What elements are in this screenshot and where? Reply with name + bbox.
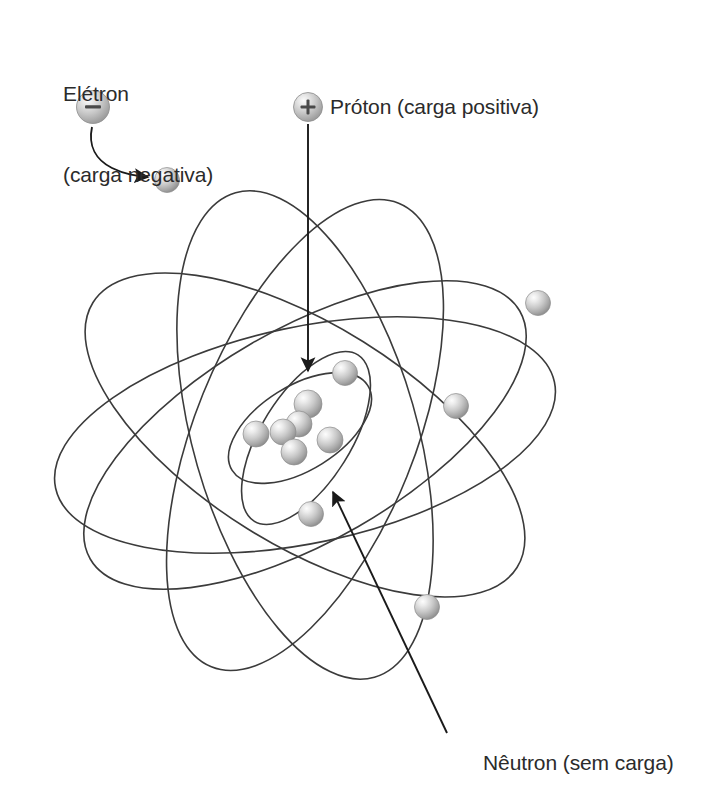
orbiting-electron <box>333 361 358 386</box>
orbiting-electron <box>299 502 324 527</box>
electron-label: Elétron (carga negativa) <box>63 26 213 242</box>
atom-diagram-page: Elétron (carga negativa) Próton (carga p… <box>0 0 720 803</box>
nucleus-particle <box>317 427 343 453</box>
nucleus <box>243 390 343 465</box>
orbiting-electrons <box>155 168 551 620</box>
proton-label: Próton (carga positiva) <box>330 93 539 120</box>
neutron-label: Nêutron (sem carga) <box>483 749 674 776</box>
electron-label-line1: Elétron <box>63 80 213 107</box>
orbiting-electron <box>526 291 551 316</box>
nucleus-particle <box>281 439 307 465</box>
orbiting-electron <box>444 394 469 419</box>
proton-key-sphere <box>294 93 323 122</box>
orbiting-electron <box>415 595 440 620</box>
electron-label-line2: (carga negativa) <box>63 161 213 188</box>
nucleus-particle <box>243 421 269 447</box>
